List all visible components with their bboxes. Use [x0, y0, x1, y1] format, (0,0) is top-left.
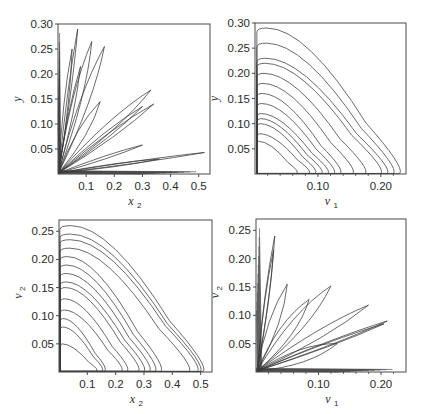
x-tick-label: 0.5: [191, 180, 207, 192]
y-axis-label-subscript: 2: [18, 286, 27, 291]
y-tick-label: 0.20: [31, 68, 53, 80]
trajectory-curves: [256, 228, 393, 372]
y-tick-label: 0.15: [228, 93, 250, 105]
x-tick-label: 0.1: [78, 180, 94, 192]
orbit-curve: [60, 344, 97, 372]
orbit-curve: [60, 234, 201, 371]
orbit-curve: [60, 310, 122, 371]
x-tick-label: 0.2: [106, 180, 122, 192]
figure-canvas: 0.050.100.150.200.250.300.10.20.30.40.5x…: [0, 0, 424, 414]
x-tick-label: 0.10: [307, 378, 329, 390]
orbit-curve: [60, 265, 156, 371]
y-tick-label: 0.05: [31, 143, 53, 155]
y-tick-label: 0.25: [31, 43, 53, 55]
y-tick-label: 0.15: [229, 281, 251, 293]
orbit-curve: [257, 104, 335, 174]
x-tick-label: 0.10: [307, 180, 329, 192]
y-tick-label: 0.30: [31, 18, 53, 30]
x-tick-label: 0.3: [136, 378, 152, 390]
x-axis-label-subscript: 2: [137, 201, 142, 210]
y-tick-label: 0.20: [229, 253, 251, 265]
orbit-curve: [257, 141, 298, 173]
y-tick-label: 0.30: [228, 17, 250, 29]
loop-curve: [59, 153, 205, 174]
x-axis-label: x: [129, 392, 136, 406]
x-tick-label: 0.20: [370, 378, 392, 390]
orbit-curve: [60, 273, 150, 371]
y-axis-label: v: [11, 293, 25, 299]
panel-top-right: 0.050.100.150.200.250.300.100.20v1y: [207, 17, 406, 210]
orbit-curve: [60, 257, 162, 372]
x-axis-label-subscript: 1: [334, 201, 339, 210]
x-axis-label: v: [325, 194, 331, 208]
y-tick-label: 0.15: [32, 282, 54, 294]
y-tick-label: 0.25: [228, 42, 250, 54]
loop-curve: [59, 107, 143, 174]
y-tick-label: 0.05: [229, 338, 251, 350]
y-axis-label-group: y: [207, 95, 221, 102]
x-tick-label: 0.5: [193, 378, 209, 390]
y-axis-label-subscript: 2: [215, 286, 224, 291]
x-tick-label: 0.4: [163, 180, 180, 192]
x-tick-label: 0.4: [164, 378, 181, 390]
orbit-curve: [60, 226, 204, 372]
y-tick-label: 0.10: [32, 310, 54, 322]
panel-bottom-left: 0.050.100.150.200.250.10.20.30.40.5x2v2: [11, 220, 212, 408]
y-tick-label: 0.20: [32, 253, 54, 265]
y-axis-label-group: v2: [11, 286, 27, 299]
y-tick-label: 0.10: [31, 118, 53, 130]
x-axis-label: v: [325, 392, 331, 406]
orbit-curve: [257, 119, 322, 174]
x-tick-label: 0.2: [108, 378, 124, 390]
trajectory-curves: [60, 226, 204, 372]
x-tick-label: 0.20: [370, 180, 392, 192]
trajectory-curves: [257, 28, 401, 173]
x-axis-label-subscript: 2: [139, 399, 144, 408]
y-axis-label: y: [207, 95, 221, 102]
y-axis-label-group: y: [10, 96, 24, 103]
x-axis-label-subscript: 1: [334, 399, 339, 408]
y-axis-label: v: [208, 292, 222, 298]
panel-top-left: 0.050.100.150.200.250.300.10.20.30.40.5x…: [10, 18, 210, 210]
y-tick-label: 0.05: [228, 143, 250, 155]
y-tick-label: 0.05: [32, 338, 54, 350]
y-tick-label: 0.10: [229, 309, 251, 321]
y-tick-label: 0.20: [228, 67, 250, 79]
y-tick-label: 0.25: [32, 225, 54, 237]
orbit-curve: [60, 282, 145, 372]
trajectory-curves: [58, 29, 204, 174]
y-axis-label-group: v2: [208, 286, 224, 299]
y-tick-label: 0.10: [228, 118, 250, 130]
x-tick-label: 0.3: [134, 180, 150, 192]
x-axis-label: x: [127, 194, 134, 208]
y-axis-label: y: [10, 96, 24, 103]
orbit-curve: [257, 134, 310, 174]
x-tick-label: 0.1: [79, 378, 95, 390]
y-tick-label: 0.25: [229, 224, 251, 236]
plot-frame: [256, 219, 406, 372]
y-tick-label: 0.15: [31, 93, 53, 105]
panel-bottom-right: 0.050.100.150.200.250.100.20v1v2: [208, 219, 406, 408]
